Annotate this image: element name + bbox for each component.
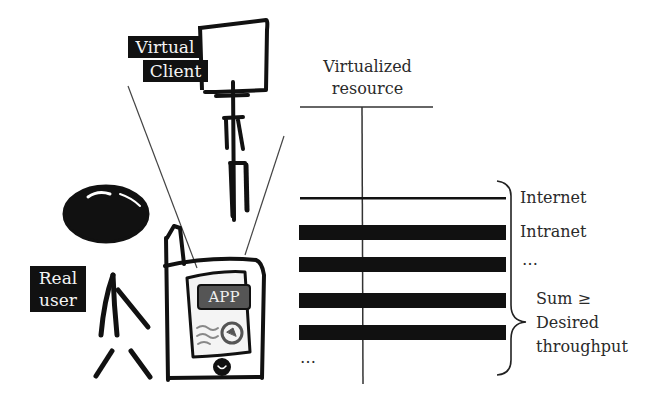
resource-bar-3 — [299, 257, 506, 272]
resource-bar-intranet — [299, 225, 506, 240]
sum-throughput-label: Sum ≥ Desired throughput — [536, 287, 628, 359]
virtual-client-figure-icon — [216, 82, 248, 220]
resource-ellipsis-left: … — [300, 348, 316, 368]
virtual-client-label-line2: Client — [143, 60, 208, 82]
real-user-figure-icon — [96, 275, 150, 377]
resource-bar-4 — [299, 293, 506, 308]
real-user-head-icon — [64, 186, 148, 242]
resource-label-more: … — [522, 250, 538, 270]
resource-label-intranet: Intranet — [520, 222, 586, 242]
curly-brace-icon — [497, 181, 526, 375]
resource-label-internet: Internet — [520, 188, 586, 208]
virtual-client-label: Virtual — [128, 36, 202, 58]
resource-bar-5 — [299, 325, 506, 340]
real-user-label: Real user — [30, 266, 86, 312]
virtualized-resource-title: Virtualized resource — [300, 56, 435, 100]
resource-bar-internet — [300, 197, 506, 200]
app-badge: APP — [197, 284, 251, 310]
